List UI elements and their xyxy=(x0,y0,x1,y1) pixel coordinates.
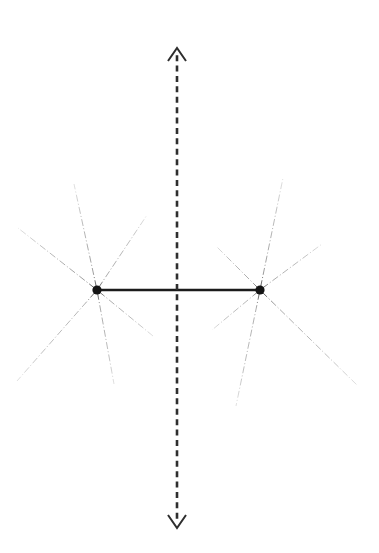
spoke-line xyxy=(18,228,95,288)
diagram-canvas xyxy=(0,0,379,553)
node-point xyxy=(255,285,264,294)
spoke-line xyxy=(17,292,95,381)
spoke-line xyxy=(216,246,258,288)
spoke-line xyxy=(74,184,96,287)
spoke-line xyxy=(99,292,153,336)
spoke-line xyxy=(262,292,358,386)
spoke-line xyxy=(98,293,114,384)
spoke-line xyxy=(99,215,147,288)
node-point xyxy=(92,285,101,294)
spoke-line xyxy=(261,178,283,287)
spoke-line xyxy=(212,292,258,330)
spokes-group xyxy=(17,178,358,406)
spoke-line xyxy=(236,293,259,406)
diagram-svg xyxy=(0,0,379,553)
symmetry-axis-group xyxy=(168,48,186,528)
spoke-line xyxy=(262,244,322,288)
